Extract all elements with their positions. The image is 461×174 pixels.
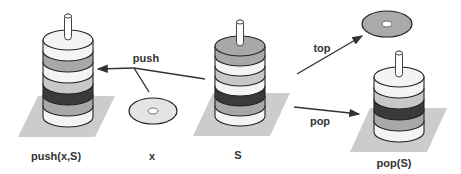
label-push-arrow: push bbox=[133, 52, 159, 64]
label-push-result: push(x,S) bbox=[31, 150, 81, 162]
label-pop-arrow: pop bbox=[310, 115, 330, 127]
stack-pop-result bbox=[374, 51, 424, 142]
label-stack-s: S bbox=[234, 149, 241, 161]
element-x-disk bbox=[129, 98, 177, 124]
label-element-x: x bbox=[149, 150, 155, 162]
top-disk bbox=[362, 11, 412, 37]
push-arrow bbox=[98, 68, 205, 92]
pop-arrow bbox=[294, 107, 359, 114]
label-pop-result: pop(S) bbox=[377, 157, 412, 169]
stack-diagram: push(x,S) x S pop(S) push top pop bbox=[0, 0, 461, 174]
label-top-arrow: top bbox=[313, 42, 330, 54]
stack-s bbox=[215, 20, 265, 126]
diagram-graphics bbox=[0, 0, 461, 174]
stack-push-result bbox=[43, 14, 93, 127]
